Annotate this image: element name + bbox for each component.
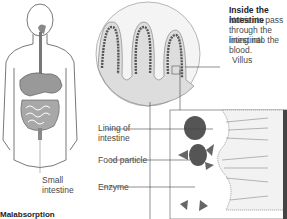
villi-magnified xyxy=(96,2,200,106)
small-intestine-label-1: Small xyxy=(42,175,63,185)
inside-line-1: Nutrients pass xyxy=(229,15,283,25)
villus-label: Villus xyxy=(232,55,252,65)
inside-line-3: lining into the blood. xyxy=(229,35,287,55)
lining-panel xyxy=(170,110,287,219)
food-particle-label: Food particle xyxy=(98,155,147,165)
enzyme-label: Enzyme xyxy=(98,182,129,192)
lining-label-1: Lining of xyxy=(98,123,130,133)
small-intestine-label-2: intestine xyxy=(42,185,74,195)
lining-label-2: intestine xyxy=(98,133,130,143)
digestive-organs xyxy=(20,24,62,140)
section-heading: Malabsorption xyxy=(0,210,55,219)
